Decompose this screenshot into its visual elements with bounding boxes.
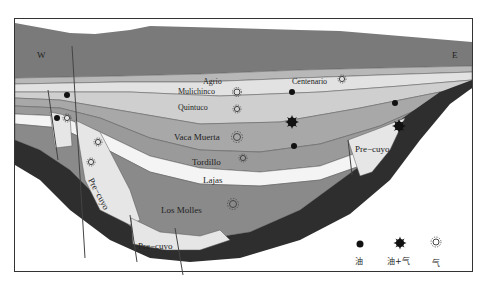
formation-label-agrio: Agrio xyxy=(203,77,222,86)
west-label: W xyxy=(37,50,46,60)
legend-oil-gas-icon xyxy=(394,237,407,250)
legend-gas-label: 气 xyxy=(432,258,440,268)
geological-cross-section: W E Agrio Centenario Mulichinco Quintuco… xyxy=(0,0,487,293)
formation-label-vaca-muerta: Vaca Muerta xyxy=(174,132,220,142)
oil-icon xyxy=(289,89,295,95)
oil-icon xyxy=(291,143,297,149)
formation-label-mulichinco: Mulichinco xyxy=(178,87,215,96)
formation-label-lajas: Lajas xyxy=(203,175,223,185)
oil-icon xyxy=(392,100,398,106)
oil-gas-icon xyxy=(392,119,406,133)
formation-label-centenario: Centenario xyxy=(292,77,327,86)
formation-label-tordillo: Tordillo xyxy=(192,157,221,167)
formation-label-pre-cuyo-bottom: Pre−cuyo xyxy=(138,241,173,251)
formation-label-los-molles: Los Molles xyxy=(161,205,202,215)
formation-label-pre-cuyo-right: Pre−cuyo xyxy=(355,144,390,154)
formation-label-quintuco: Quintuco xyxy=(178,103,208,112)
oil-gas-icon xyxy=(285,115,299,129)
legend-oil-gas-label: 油+气 xyxy=(387,256,410,266)
oil-icon xyxy=(64,92,70,98)
oil-icon xyxy=(54,115,60,121)
legend-oil-icon xyxy=(357,241,364,248)
legend-oil-label: 油 xyxy=(355,256,363,266)
east-label: E xyxy=(452,50,458,60)
